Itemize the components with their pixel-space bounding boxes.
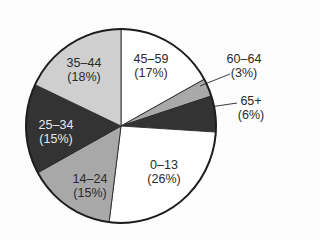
slice-percentage: (15%) bbox=[39, 132, 74, 146]
slice-percentage: (26%) bbox=[147, 172, 180, 186]
slice-category: 45–59 bbox=[134, 52, 169, 66]
slice-category: 60–64 bbox=[227, 52, 262, 66]
slice-category: 0–13 bbox=[147, 158, 180, 172]
slice-percentage: (15%) bbox=[73, 186, 108, 200]
slice-percentage: (18%) bbox=[67, 70, 102, 84]
slice-label: 60–64(3%) bbox=[227, 52, 262, 80]
slice-percentage: (6%) bbox=[238, 108, 264, 122]
slice-category: 25–34 bbox=[39, 118, 74, 132]
slice-label: 0–13(26%) bbox=[147, 158, 180, 186]
slice-label: 25–34(15%) bbox=[39, 118, 74, 146]
slice-label: 45–59(17%) bbox=[134, 52, 169, 80]
slice-category: 35–44 bbox=[67, 56, 102, 70]
slice-percentage: (17%) bbox=[134, 66, 169, 80]
slice-label: 35–44(18%) bbox=[67, 56, 102, 84]
slice-label: 65+(6%) bbox=[238, 94, 264, 122]
slice-label: 14–24(15%) bbox=[73, 172, 108, 200]
slice-category: 14–24 bbox=[73, 172, 108, 186]
slice-percentage: (3%) bbox=[227, 66, 262, 80]
slice-category: 65+ bbox=[238, 94, 264, 108]
